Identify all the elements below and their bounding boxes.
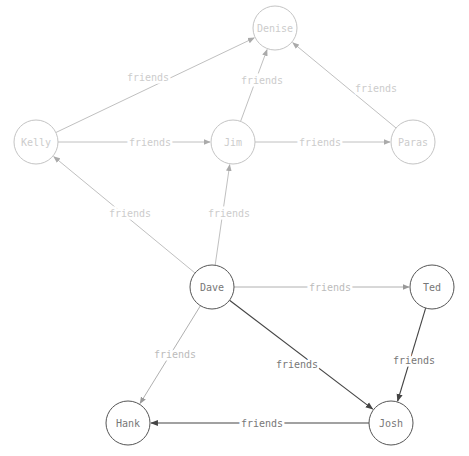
node-label: Kelly	[21, 137, 51, 148]
edge-label: friends	[208, 208, 250, 219]
edge-label: friends	[127, 72, 169, 83]
node-denise[interactable]: Denise	[253, 6, 297, 50]
graph-canvas: friendsfriendsfriendsfriendsfriendsfrien…	[0, 0, 469, 456]
edge-label: friends	[299, 137, 341, 148]
node-kelly[interactable]: Kelly	[14, 120, 58, 164]
social-graph-diagram: friendsfriendsfriendsfriendsfriendsfrien…	[0, 0, 469, 456]
edge-label: friends	[241, 418, 283, 429]
edge-label: friends	[393, 355, 435, 366]
node-label: Jim	[224, 137, 242, 148]
node-jim[interactable]: Jim	[211, 120, 255, 164]
node-label: Paras	[398, 137, 428, 148]
edge-label: friends	[154, 349, 196, 360]
edge-label: friends	[276, 359, 318, 370]
node-ted[interactable]: Ted	[410, 265, 454, 309]
node-josh[interactable]: Josh	[369, 401, 413, 445]
nodes-layer: DeniseKellyJimParasDaveTedHankJosh	[14, 6, 454, 445]
node-label: Hank	[116, 418, 140, 429]
node-label: Josh	[379, 418, 403, 429]
edge-kelly-to-denise	[56, 38, 254, 133]
edge-label: friends	[309, 282, 351, 293]
node-dave[interactable]: Dave	[190, 265, 234, 309]
edges-layer	[54, 38, 426, 423]
edge-label: friends	[129, 137, 171, 148]
edge-label: friends	[109, 208, 151, 219]
edge-dave-to-josh	[230, 300, 373, 409]
node-hank[interactable]: Hank	[106, 401, 150, 445]
node-label: Dave	[200, 282, 224, 293]
edge-label: friends	[241, 75, 283, 86]
node-paras[interactable]: Paras	[391, 120, 435, 164]
node-label: Ted	[423, 282, 441, 293]
edge-label: friends	[355, 83, 397, 94]
node-label: Denise	[257, 23, 293, 34]
